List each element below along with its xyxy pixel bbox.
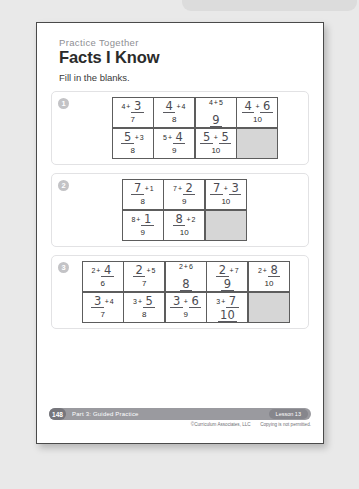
sum-value: 9 <box>172 146 176 155</box>
sum-value: 6 <box>100 279 104 288</box>
sum-value: 7 <box>142 279 146 288</box>
fact-sum: 10 <box>221 195 230 208</box>
addend-two: 4 <box>110 298 114 305</box>
sum-value: 10 <box>265 279 274 288</box>
fact-sum: 8 <box>130 144 134 157</box>
fact-cell[interactable]: 2+57 <box>123 261 165 292</box>
sum-value: 8 <box>142 310 146 319</box>
fact-grid-row: 7+187+297+310 <box>122 180 247 211</box>
worksheet-page: Practice Together Facts I Know Fill in t… <box>36 22 324 444</box>
exercise-card: 14+374+484+594+6105+385+495+510 <box>51 91 309 165</box>
addend-two: 4 <box>181 103 185 110</box>
addend-two: 7 <box>235 267 239 274</box>
fact-sum: 10 <box>253 113 262 126</box>
fact-grid: 4+374+484+594+6105+385+495+510 <box>112 98 278 159</box>
fact-sum: 8 <box>140 195 144 208</box>
fact-cell[interactable]: 5+49 <box>153 128 195 159</box>
fact-sum: 9 <box>182 195 186 208</box>
fact-equation: 7+3 <box>210 181 241 195</box>
sum-value: 7 <box>130 115 134 124</box>
sum-value: 10 <box>253 115 262 124</box>
fact-sum: 8 <box>180 277 192 290</box>
top-chrome-bar <box>182 0 357 11</box>
addend-two-answer: 6 <box>189 295 201 308</box>
fact-grid-row: 5+385+495+510 <box>112 128 278 159</box>
fact-cell[interactable]: 3+58 <box>123 292 165 323</box>
addend-one-answer: 7 <box>131 182 143 195</box>
sum-value: 10 <box>180 228 189 237</box>
fact-sum: 7 <box>142 277 146 290</box>
fact-grid: 2+462+572+682+792+8103+473+583+693+710 <box>82 262 290 323</box>
addend-two-answer: 3 <box>229 182 241 195</box>
fact-cell[interactable]: 7+29 <box>163 179 205 210</box>
exercise-number-badge: 2 <box>58 180 69 191</box>
fact-cell-blank <box>205 210 247 241</box>
page-footer: 148 Part 3: Guided Practice Lesson 13 ©C… <box>49 408 311 427</box>
exercise-card: 27+187+297+3108+198+210 <box>51 173 309 247</box>
fact-cell[interactable]: 3+69 <box>165 292 207 323</box>
fact-sum: 6 <box>100 277 104 290</box>
fact-cell-blank <box>236 128 278 159</box>
fact-cell[interactable]: 2+810 <box>248 261 290 292</box>
addend-one-answer: 3 <box>170 295 182 308</box>
fact-cell[interactable]: 5+38 <box>112 128 154 159</box>
fact-equation: 7+2 <box>173 181 195 195</box>
sum-value: 9 <box>140 228 144 237</box>
addend-one-answer: 2 <box>216 264 228 277</box>
fact-sum: 9 <box>140 226 144 239</box>
fact-cell[interactable]: 7+310 <box>205 179 247 210</box>
addend-two-answer: 6 <box>260 100 272 113</box>
addend-one-answer: 4 <box>242 100 254 113</box>
fact-cell[interactable]: 3+47 <box>82 292 124 323</box>
addend-two-answer: 7 <box>226 295 238 308</box>
fact-equation: 3+6 <box>170 294 201 308</box>
fact-equation: 3+5 <box>133 294 155 308</box>
fact-cell[interactable]: 8+19 <box>122 210 164 241</box>
fact-equation: 4+5 <box>209 99 223 113</box>
fact-grid-row: 8+198+210 <box>122 210 247 241</box>
addend-two: 1 <box>150 185 154 192</box>
addend-two-answer: 8 <box>268 264 280 277</box>
fact-cell[interactable]: 3+710 <box>206 292 248 323</box>
addend-one-answer: 5 <box>200 131 212 144</box>
fact-cell[interactable]: 4+59 <box>195 97 237 128</box>
sum-value: 8 <box>172 115 176 124</box>
page-number-badge: 148 <box>49 408 66 420</box>
exercise-number-badge: 1 <box>58 98 69 109</box>
fact-equation: 2+5 <box>133 263 155 277</box>
fact-equation: 5+5 <box>200 130 231 144</box>
addend-two-answer: 5 <box>143 295 155 308</box>
fact-sum: 7 <box>130 113 134 126</box>
sum-answer: 8 <box>180 278 192 291</box>
fact-equation: 4+3 <box>121 99 143 113</box>
sum-answer: 10 <box>218 309 238 322</box>
fact-sum: 10 <box>211 144 220 157</box>
sum-value: 8 <box>130 146 134 155</box>
fact-cell[interactable]: 2+46 <box>82 261 124 292</box>
page-title: Facts I Know <box>59 49 323 67</box>
exercise-card: 32+462+572+682+792+8103+473+583+693+710 <box>51 255 309 329</box>
sum-value: 10 <box>221 197 230 206</box>
copyright-text: ©Curriculum Associates, LLC <box>191 422 251 427</box>
fact-cell[interactable]: 7+18 <box>122 179 164 210</box>
worksheet-viewer: Practice Together Facts I Know Fill in t… <box>0 0 359 489</box>
fact-cell[interactable]: 4+610 <box>236 97 278 128</box>
fact-equation: 2+4 <box>91 263 113 277</box>
lesson-badge: Lesson 13 <box>269 409 308 419</box>
addend-one-answer: 7 <box>210 182 222 195</box>
addend-two-answer: 1 <box>141 213 153 226</box>
addend-two-answer: 3 <box>131 100 143 113</box>
exercise-number-badge: 3 <box>58 262 69 273</box>
fact-cell[interactable]: 8+210 <box>163 210 205 241</box>
exercise-list: 14+374+484+594+6105+385+495+51027+187+29… <box>37 91 323 329</box>
fact-cell[interactable]: 4+37 <box>112 97 154 128</box>
copyright-line: ©Curriculum Associates, LLC Copying is n… <box>49 422 311 427</box>
fact-cell[interactable]: 4+48 <box>153 97 195 128</box>
fact-equation: 3+4 <box>91 294 113 308</box>
fact-cell[interactable]: 5+510 <box>195 128 237 159</box>
fact-cell[interactable]: 2+79 <box>206 261 248 292</box>
fact-equation: 8+1 <box>131 212 153 226</box>
addend-two: 3 <box>140 134 144 141</box>
fact-equation: 4+4 <box>163 99 185 113</box>
fact-cell[interactable]: 2+68 <box>165 261 207 292</box>
